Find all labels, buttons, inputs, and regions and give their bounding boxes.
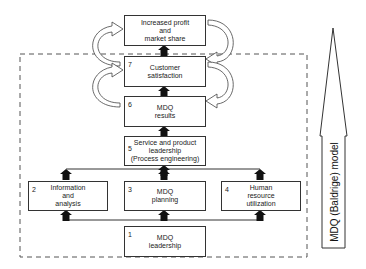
box-human-resource: 4 Human resource utilization xyxy=(221,181,301,211)
box-number: 1 xyxy=(128,231,132,239)
box-label: Human resource utilization xyxy=(242,184,279,208)
box-mdq-planning: 3 MDQ planning xyxy=(124,181,206,211)
box-number: 2 xyxy=(32,186,36,194)
box-number: 7 xyxy=(128,61,132,69)
box-information-analysis: 2 Information and analysis xyxy=(28,181,108,211)
box-label: MDQ planning xyxy=(148,188,182,204)
box-mdq-leadership: 1 MDQ leadership xyxy=(124,226,206,257)
box-label: Service and product leadership (Process … xyxy=(127,139,203,163)
curved-arrows-left xyxy=(93,22,123,107)
box-label: Customer satisfaction xyxy=(143,64,186,80)
curved-arrows-right xyxy=(206,20,233,108)
box-number: 5 xyxy=(128,145,132,153)
box-number: 3 xyxy=(128,186,132,194)
box-customer-satisfaction: 7 Customer satisfaction xyxy=(124,56,206,87)
box-label: Increased profit and market share xyxy=(137,19,193,43)
box-number: 6 xyxy=(128,101,132,109)
box-label: MDQ leadership xyxy=(145,234,185,250)
model-label: MDQ (Baldrige) model xyxy=(329,142,340,241)
box-increased-profit: Increased profit and market share xyxy=(124,15,206,46)
box-label: MDQ results xyxy=(151,104,180,120)
box-number: 4 xyxy=(225,186,229,194)
box-service-product-leadership: 5 Service and product leadership (Proces… xyxy=(124,136,206,166)
box-label: Information and analysis xyxy=(46,184,89,208)
box-mdq-results: 6 MDQ results xyxy=(124,96,206,127)
